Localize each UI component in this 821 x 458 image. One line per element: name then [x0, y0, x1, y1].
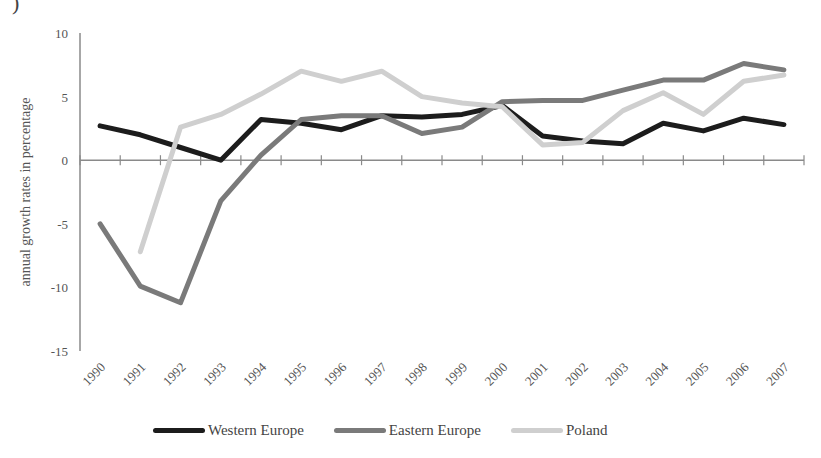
x-tick-label: 1991: [119, 360, 148, 389]
y-tick-label: 0: [62, 153, 69, 168]
legend-item-eastern-europe: Eastern Europe: [334, 422, 481, 439]
legend-swatch-poland: [511, 428, 563, 433]
line-chart: annual growth rates in percentage 1050-5…: [0, 0, 821, 458]
x-tick-label: 2001: [522, 360, 551, 389]
x-tick-label: 2000: [481, 360, 510, 389]
x-tick-label: 2002: [562, 360, 591, 389]
x-tick-label: 2003: [602, 360, 631, 389]
x-tick-label: 2006: [723, 359, 752, 388]
y-axis-ticks: 1050-5-10-15: [51, 26, 68, 359]
x-tick-label: 1994: [240, 359, 269, 388]
y-axis-title: annual growth rates in percentage: [18, 98, 33, 287]
x-tick-label: 2007: [763, 359, 792, 388]
legend-item-western-europe: Western Europe: [153, 422, 304, 439]
x-tick-label: 1993: [200, 360, 229, 389]
legend-item-poland: Poland: [511, 422, 608, 439]
x-tick-label: 1995: [280, 360, 309, 389]
legend-swatch-western-europe: [153, 428, 205, 433]
x-axis-ticks: 1990199119921993199419951996199719981999…: [79, 359, 792, 388]
legend-swatch-eastern-europe: [334, 428, 386, 433]
y-tick-label: -5: [57, 217, 68, 232]
x-tick-label: 1992: [160, 360, 189, 389]
x-tick-label: 1990: [79, 360, 108, 389]
x-tick-label: 1996: [321, 359, 350, 388]
series-line-western-europe: [100, 106, 784, 161]
y-axis-title-group: annual growth rates in percentage: [18, 98, 33, 287]
legend: Western Europe Eastern Europe Poland: [153, 422, 608, 439]
x-tick-label: 2005: [683, 360, 712, 389]
legend-label-western-europe: Western Europe: [208, 422, 304, 439]
y-tick-label: 5: [62, 90, 69, 105]
x-tick-label: 1999: [441, 360, 470, 389]
x-tick-label: 2004: [642, 359, 671, 388]
series-lines: [100, 64, 784, 303]
series-line-poland: [140, 71, 784, 252]
x-tick-label: 1998: [401, 360, 430, 389]
y-tick-label: -15: [51, 344, 68, 359]
legend-label-poland: Poland: [566, 422, 608, 439]
y-tick-label: 10: [55, 26, 68, 41]
y-tick-label: -10: [51, 280, 68, 295]
x-tick-label: 1997: [361, 359, 390, 388]
legend-label-eastern-europe: Eastern Europe: [389, 422, 481, 439]
